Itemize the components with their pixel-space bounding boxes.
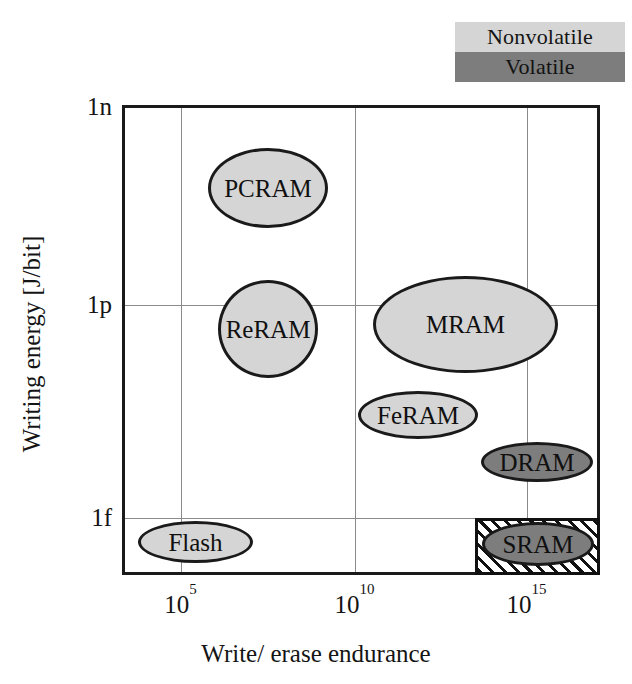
marker-label-pcram: PCRAM (224, 176, 312, 201)
marker-feram: FeRAM (358, 391, 478, 439)
marker-dram: DRAM (481, 442, 593, 482)
legend-label-volatile: Volatile (505, 56, 575, 78)
gridline-x-1e5 (181, 108, 182, 572)
xtick-exp-1e10: 10 (360, 581, 375, 597)
y-axis-title: Writing energy [J/bit] (18, 144, 46, 544)
xtick-label-1e5: 105 (123, 592, 238, 617)
marker-label-flash: Flash (168, 530, 222, 555)
ytick-label-1p: 1p (52, 292, 112, 317)
marker-label-feram: FeRAM (377, 403, 459, 428)
xtick-label-1e10: 1010 (297, 592, 412, 617)
legend-item-volatile: Volatile (455, 52, 625, 82)
xtick-base-1e10: 10 (335, 591, 360, 618)
marker-label-dram: DRAM (499, 450, 574, 475)
marker-reram: ReRAM (218, 280, 318, 378)
legend: Nonvolatile Volatile (455, 22, 625, 82)
gridline-x-1e10 (355, 108, 356, 572)
marker-label-reram: ReRAM (226, 317, 311, 342)
memory-technology-scatter-figure: Nonvolatile Volatile PCRAM ReRAM MRAM Fe… (0, 0, 632, 684)
xtick-exp-1e15: 15 (532, 581, 547, 597)
ytick-label-1n: 1n (52, 94, 112, 119)
marker-pcram: PCRAM (208, 148, 328, 228)
legend-label-nonvolatile: Nonvolatile (487, 26, 593, 48)
legend-item-nonvolatile: Nonvolatile (455, 22, 625, 52)
xtick-label-1e15: 1015 (469, 592, 584, 617)
marker-label-mram: MRAM (426, 312, 505, 337)
marker-mram: MRAM (373, 276, 558, 373)
marker-flash: Flash (138, 521, 253, 563)
xtick-exp-1e5: 5 (189, 581, 197, 597)
plot-area: PCRAM ReRAM MRAM FeRAM DRAM Flash SRAM (122, 105, 600, 575)
marker-sram: SRAM (482, 522, 594, 566)
ytick-label-1f: 1f (52, 505, 112, 530)
marker-label-sram: SRAM (503, 532, 574, 557)
xtick-base-1e15: 10 (507, 591, 532, 618)
xtick-base-1e5: 10 (164, 591, 189, 618)
x-axis-title: Write/ erase endurance (0, 640, 632, 668)
